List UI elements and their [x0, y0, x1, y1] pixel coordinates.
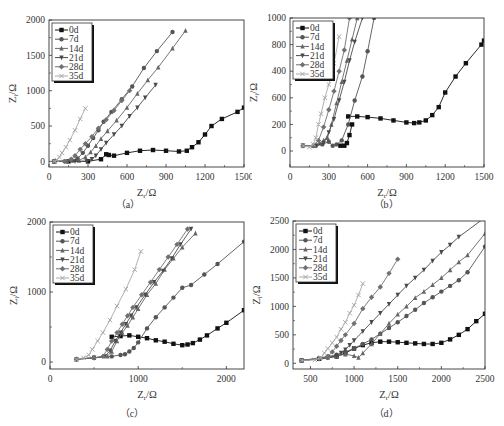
y-tick-label: 2000 [270, 245, 289, 255]
y-tick-label: 0 [284, 359, 289, 369]
chart-svg-d: 500100015002000250005001000150020002500Z… [0, 0, 504, 426]
y-tick-label: 1500 [270, 273, 289, 283]
x-tick-label: 500 [303, 374, 318, 384]
x-tick-label: 2000 [432, 374, 451, 384]
chart-panel-d: 500100015002000250005001000150020002500Z… [0, 0, 504, 426]
legend-label: 35d [313, 272, 328, 282]
x-tick-label: 1000 [345, 374, 364, 384]
caption-d: （d） [366, 405, 406, 420]
y-tick-label: 500 [275, 330, 290, 340]
legend: 0d7d14d21d28d35d [296, 224, 338, 284]
y-tick-label: 1000 [270, 302, 289, 312]
x-tick-label: 2500 [476, 374, 495, 384]
x-axis-label: Zr/Ω [379, 389, 399, 402]
y-axis-label: Zi/Ω [251, 285, 264, 304]
y-tick-label: 2500 [270, 216, 289, 226]
x-tick-label: 1500 [388, 374, 407, 384]
